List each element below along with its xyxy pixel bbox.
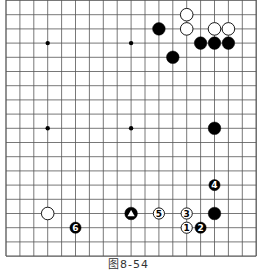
stone-disc [208,122,221,135]
stone-disc [208,37,221,50]
white-stone-1: 1 [181,222,192,233]
move-number: 1 [184,223,190,233]
black-stone-6: 6 [70,222,81,233]
move-number: 4 [211,180,217,190]
black-stone [208,207,221,220]
go-board: 426531 [0,0,257,258]
stone-disc [153,23,166,36]
move-number: 6 [72,223,78,233]
white-stone [180,23,193,36]
white-stone-5: 5 [153,208,164,219]
black-stone [194,37,207,50]
stone-disc [222,23,235,36]
black-stone [208,122,221,135]
black-stone [222,37,235,50]
black-stone [125,207,138,220]
black-stone-4: 4 [209,180,220,191]
move-number: 5 [156,209,162,219]
black-stone [167,51,180,64]
black-stone [153,23,166,36]
stone-disc [222,37,235,50]
white-stone-3: 3 [181,208,192,219]
white-stone [222,23,235,36]
stone-disc [41,207,54,220]
white-stone [41,207,54,220]
figure-caption: 图8-54 [0,259,257,271]
black-stone [208,37,221,50]
star-point [46,41,50,45]
move-number: 2 [197,223,203,233]
star-point [46,126,50,130]
black-stone-2: 2 [195,222,206,233]
stone-disc [167,51,180,64]
white-stone [208,23,221,36]
white-stone [180,8,193,21]
stone-disc [180,23,193,36]
star-point [129,126,133,130]
stone-disc [208,207,221,220]
stone-disc [194,37,207,50]
stone-disc [208,23,221,36]
move-number: 3 [184,209,190,219]
star-point [129,41,133,45]
stone-disc [180,8,193,21]
